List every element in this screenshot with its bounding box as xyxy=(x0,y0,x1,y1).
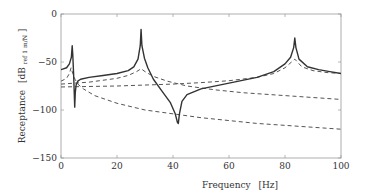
y-axis-label-unit-close: ] xyxy=(17,29,27,33)
x-tick-label: 40 xyxy=(167,161,179,171)
series-layer xyxy=(61,29,341,129)
y-axis-label: Receptance [dB ref 1 m/N ] xyxy=(17,29,29,144)
axis-ticks: 0204060801000−50−100−150 xyxy=(32,9,350,171)
modal-contribution-line xyxy=(61,68,341,129)
x-axis-label: Frequency [Hz] xyxy=(202,180,278,190)
x-axis-label-unit: [Hz] xyxy=(258,180,278,190)
x-tick-label: 100 xyxy=(332,161,349,171)
y-tick-label: −50 xyxy=(38,57,57,67)
x-tick-label: 60 xyxy=(223,161,235,171)
y-axis-label-unit-sub: ref 1 m/N xyxy=(21,35,28,64)
y-tick-label: −100 xyxy=(32,105,57,115)
y-axis-label-text: Receptance xyxy=(17,90,27,143)
x-axis-label-text: Frequency xyxy=(202,180,252,190)
y-tick-label: 0 xyxy=(51,9,57,19)
y-tick-label: −150 xyxy=(32,153,57,163)
y-axis-label-unit: [dB xyxy=(17,67,27,83)
x-tick-label: 80 xyxy=(279,161,291,171)
x-tick-label: 20 xyxy=(111,161,123,171)
x-tick-label: 0 xyxy=(58,161,64,171)
total-receptance-line xyxy=(61,29,341,123)
receptance-chart: 0204060801000−50−100−150 Frequency [Hz] … xyxy=(0,0,365,193)
modal-contribution-line xyxy=(61,59,341,87)
modal-contribution-line xyxy=(61,69,341,100)
